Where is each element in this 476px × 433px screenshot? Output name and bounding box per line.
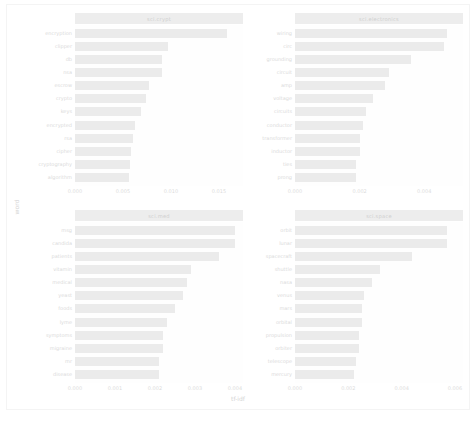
bar-category-label: db [66, 55, 72, 64]
bar [75, 81, 149, 90]
bar-row: conductor [295, 121, 463, 130]
x-tick-label: 0.010 [164, 188, 178, 194]
bar-row: msg [75, 226, 243, 235]
bar-category-label: cipher [56, 147, 72, 156]
bar-row: shuttle [295, 265, 463, 274]
bar-row: amp [295, 81, 463, 90]
bar-category-label: foods [58, 304, 72, 313]
x-axis: 0.0000.0020.004 [295, 188, 463, 200]
facet-strip-label: sci.electronics [295, 13, 463, 24]
bar-category-label: venus [277, 291, 292, 300]
bar [75, 173, 129, 182]
x-tick-label: 0.005 [116, 188, 130, 194]
x-tick-label: 0.004 [417, 188, 431, 194]
bar-row: encryption [75, 29, 243, 38]
facet-strip-label: sci.med [75, 210, 243, 221]
bar-category-label: keys [61, 107, 72, 116]
bar [295, 357, 356, 366]
bar [295, 134, 360, 143]
bar-category-label: inductor [271, 147, 292, 156]
bar-row: migraine [75, 344, 243, 353]
facet-title: sci.electronics [359, 16, 399, 22]
bar-row: mercury [295, 370, 463, 379]
bar-category-label: orbit [280, 226, 292, 235]
bar-row: circuits [295, 107, 463, 116]
bar-series: encryptionclipperdbnsaescrowcryptokeysen… [75, 25, 243, 186]
bar [75, 121, 135, 130]
bar-category-label: candida [52, 239, 72, 248]
bar-row: symptoms [75, 331, 243, 340]
bar-row: orbital [295, 318, 463, 327]
bar-category-label: cryptography [38, 160, 72, 169]
bar-category-label: voltage [273, 94, 292, 103]
bar-category-label: nsa [63, 68, 72, 77]
facet-plot-panel: encryptionclipperdbnsaescrowcryptokeysen… [75, 25, 243, 186]
bar [75, 160, 130, 169]
bar-row: lunar [295, 239, 463, 248]
bar-row: crypto [75, 94, 243, 103]
facet-title: sci.crypt [147, 16, 171, 22]
bar-row: grounding [295, 55, 463, 64]
x-tick-label: 0.000 [68, 385, 82, 391]
bar-category-label: circuit [277, 68, 292, 77]
facet-plot-panel: orbitlunarspacecraftshuttlenasavenusmars… [295, 222, 463, 383]
bar-row: propulsion [295, 331, 463, 340]
facet-sci-crypt: sci.cryptencryptionclipperdbnsaescrowcry… [29, 9, 249, 206]
bar-category-label: conductor [267, 121, 292, 130]
bar-series: wiringcircgroundingcircuitampvoltagecirc… [295, 25, 463, 186]
bar-row: keys [75, 107, 243, 116]
bar [295, 278, 372, 287]
bar [295, 370, 354, 379]
x-tick-label: 0.002 [352, 188, 366, 194]
bar [295, 331, 359, 340]
facet-plot-panel: msgcandidapatientsvitaminmedicalyeastfoo… [75, 222, 243, 383]
bar-category-label: lunar [279, 239, 292, 248]
bar [295, 173, 356, 182]
bar-category-label: wiring [277, 29, 292, 38]
bar [295, 55, 411, 64]
bar [75, 42, 168, 51]
bar-category-label: orbital [276, 318, 292, 327]
bar [295, 160, 356, 169]
bar-row: vitamin [75, 265, 243, 274]
bar [75, 304, 175, 313]
bar-row: foods [75, 304, 243, 313]
bar-category-label: encryption [45, 29, 72, 38]
bar [75, 134, 133, 143]
bar [295, 226, 447, 235]
bar-row: clipper [75, 42, 243, 51]
x-axis: 0.0000.0050.0100.015 [75, 188, 243, 200]
bar-row: circ [295, 42, 463, 51]
x-tick-label: 0.001 [108, 385, 122, 391]
bar-row: patients [75, 252, 243, 261]
bar [295, 29, 447, 38]
bar-row: candida [75, 239, 243, 248]
bar-row: medical [75, 278, 243, 287]
bar [295, 81, 385, 90]
bar [75, 226, 235, 235]
x-tick-label: 0.000 [288, 188, 302, 194]
bar-category-label: crypto [56, 94, 72, 103]
bar-row: prong [295, 173, 463, 182]
bar-row: cryptography [75, 160, 243, 169]
bar-category-label: spacecraft [266, 252, 292, 261]
bar-category-label: encrypted [47, 121, 72, 130]
bar [75, 29, 227, 38]
bar [295, 265, 380, 274]
bar-category-label: vitamin [53, 265, 72, 274]
bar [295, 68, 389, 77]
bar-row: nasa [295, 278, 463, 287]
x-tick-label: 0.002 [341, 385, 355, 391]
bar [75, 278, 187, 287]
bar [75, 370, 159, 379]
bar-category-label: amp [281, 81, 292, 90]
bar-row: mars [295, 304, 463, 313]
bar [295, 239, 447, 248]
bar-category-label: propulsion [266, 331, 292, 340]
bar [295, 94, 373, 103]
bar-row: circuit [295, 68, 463, 77]
bar-category-label: prong [277, 173, 292, 182]
bar-category-label: disease [53, 370, 72, 379]
bar-series: orbitlunarspacecraftshuttlenasavenusmars… [295, 222, 463, 383]
bar-category-label: rsa [64, 134, 72, 143]
